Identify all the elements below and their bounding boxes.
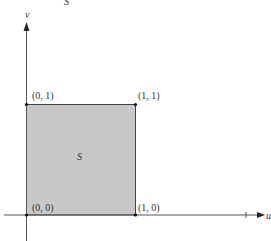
u-axis-label: u	[266, 210, 271, 221]
point-1-1	[134, 103, 137, 106]
label-0-1: (0, 1)	[32, 90, 54, 102]
title-label: S	[64, 0, 69, 7]
u-axis-arrow-icon	[257, 212, 265, 218]
point-1-0	[134, 213, 137, 216]
region-label: S	[77, 151, 82, 162]
uv-plane-diagram: S v u S (0, 1) (1, 1) (0, 0) (1, 0)	[0, 0, 271, 241]
label-1-0: (1, 0)	[138, 202, 160, 214]
point-0-1	[25, 103, 28, 106]
v-axis-arrow-icon	[24, 22, 30, 31]
v-axis-label: v	[25, 9, 30, 20]
label-origin: (0, 0)	[32, 202, 54, 214]
label-1-1: (1, 1)	[138, 90, 160, 102]
point-origin	[25, 213, 28, 216]
